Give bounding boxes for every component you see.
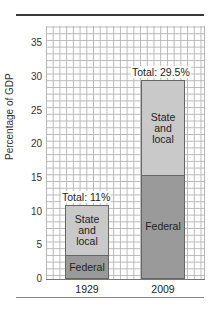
bar-2009: State and local Federal	[141, 80, 185, 279]
x-axis-baseline	[46, 279, 205, 280]
federal-label: Federal	[145, 221, 181, 232]
y-tick-5: 5	[22, 240, 42, 250]
state-local-label: State and local	[148, 112, 178, 145]
total-label-1929: Total: 11%	[61, 191, 111, 203]
y-tick-25: 25	[22, 106, 42, 116]
y-tick-0: 0	[22, 274, 42, 284]
y-tick-35: 35	[22, 38, 42, 48]
y-tick-10: 10	[22, 207, 42, 217]
x-tick-2009: 2009	[141, 283, 185, 295]
y-axis-label: Percentage of GDP	[4, 73, 15, 160]
bar-1929: State and local Federal	[65, 205, 109, 279]
bar-2009-federal: Federal	[141, 175, 185, 279]
total-label-2009: Total: 29.5%	[131, 66, 191, 78]
state-local-label: State and local	[72, 214, 102, 247]
x-tick-1929: 1929	[65, 283, 109, 295]
y-tick-15: 15	[22, 173, 42, 183]
y-tick-20: 20	[22, 139, 42, 149]
top-rule	[16, 14, 204, 16]
bar-1929-state-local: State and local	[65, 205, 109, 256]
bar-2009-state-local: State and local	[141, 80, 185, 175]
bar-1929-federal: Federal	[65, 255, 109, 279]
y-tick-30: 30	[22, 72, 42, 82]
bottom-rule	[16, 297, 204, 298]
federal-label: Federal	[69, 262, 105, 273]
